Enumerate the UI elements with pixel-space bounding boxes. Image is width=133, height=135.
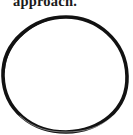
circle-outline-thick-upper-right <box>66 17 127 72</box>
circle-outline-thick-upper-left <box>4 17 66 72</box>
figure-hand-drawn-circle <box>0 10 133 135</box>
caption-line: approach. <box>0 0 133 9</box>
caption-text: approach. <box>13 0 77 9</box>
scanned-page: approach. <box>0 0 133 135</box>
circle-icon <box>0 10 133 135</box>
